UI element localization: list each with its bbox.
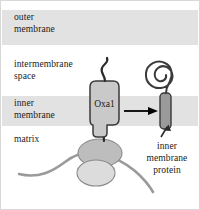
label-inner-membrane-protein: inner membrane protein [139, 140, 195, 176]
nascent-chain-upper [102, 58, 108, 81]
pointer-arrow [161, 125, 171, 138]
figure-container: outer membrane intermembrane space inner… [0, 0, 200, 210]
ribosome-large-subunit [78, 139, 122, 167]
label-outer-membrane: outer membrane [14, 12, 55, 35]
label-intermembrane-space: intermembrane space [14, 59, 73, 82]
ribosome-small-subunit [77, 160, 115, 186]
protein-coil-spiral [146, 62, 173, 93]
label-inner-membrane: inner membrane [14, 98, 55, 121]
nascent-chain-lower [104, 126, 105, 141]
mrna-strand [19, 152, 153, 192]
label-matrix: matrix [14, 134, 39, 146]
